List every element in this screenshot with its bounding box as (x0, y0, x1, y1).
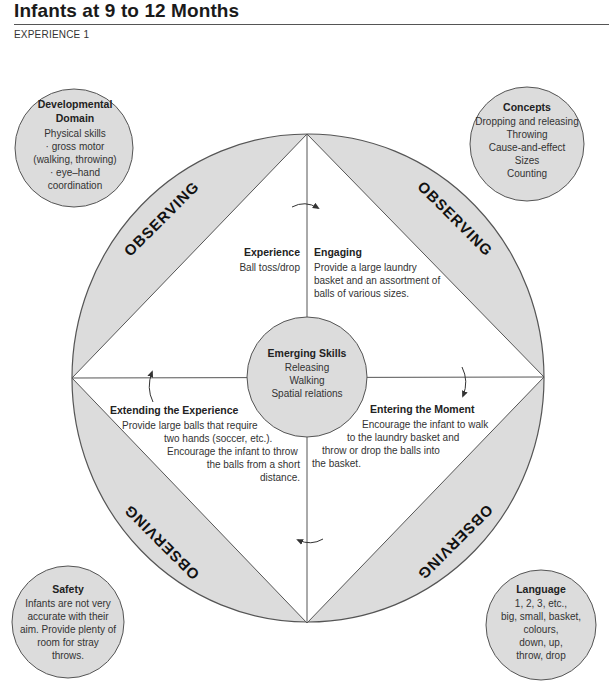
safety-text: Safety Infants are not very accurate wit… (12, 582, 124, 662)
emerging-skills-text: Emerging Skills Releasing Walking Spatia… (252, 346, 362, 400)
concepts-text: Concepts Dropping and releasing Throwing… (467, 100, 587, 180)
extending-the-experience-block: Extending the Experience Provide large b… (110, 403, 300, 484)
entering-the-moment-block: Entering the Moment Encourage the infant… (310, 402, 510, 470)
language-text: Language 1, 2, 3, etc., big, small, bask… (485, 582, 597, 662)
developmental-domain-text: Developmental Domain Physical skills · g… (17, 97, 133, 192)
experience-block: Experience Ball toss/drop (200, 245, 300, 274)
engaging-block: Engaging Provide a large laundry basket … (314, 245, 484, 300)
